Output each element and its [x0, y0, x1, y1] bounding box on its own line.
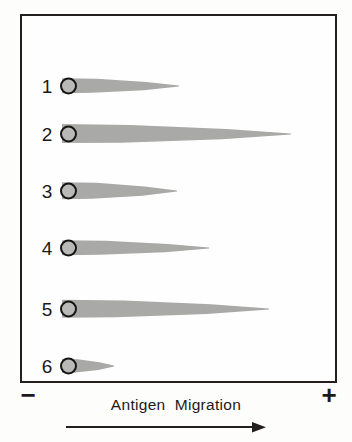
gel-plate: 123456 — [20, 14, 337, 383]
gel-lane: 1 — [22, 63, 335, 109]
rocket-immunoelectrophoresis-figure: 123456 − + Antigen Migration — [0, 0, 352, 442]
gel-lane: 4 — [22, 225, 335, 271]
right-arrow-icon — [66, 421, 266, 435]
lane-number-label: 6 — [39, 357, 55, 376]
lane-number-label: 1 — [39, 77, 55, 96]
precipitin-rocket — [62, 239, 209, 258]
gel-lane: 2 — [22, 111, 335, 157]
precipitin-rocket — [62, 123, 291, 146]
lane-number-label: 4 — [39, 239, 55, 258]
gel-lane: 6 — [22, 343, 335, 389]
antigen-well — [60, 358, 77, 375]
antigen-well — [60, 126, 77, 143]
precipitin-rocket — [62, 181, 177, 202]
gel-lane: 5 — [22, 286, 335, 332]
axis-caption: Antigen Migration — [0, 396, 352, 414]
antigen-well — [60, 301, 77, 318]
precipitin-rocket — [62, 298, 269, 320]
antigen-well — [60, 78, 77, 95]
precipitin-rocket — [62, 77, 179, 96]
antigen-well — [60, 240, 77, 257]
lane-number-label: 2 — [39, 125, 55, 144]
gel-lane: 3 — [22, 168, 335, 214]
lane-number-label: 3 — [39, 182, 55, 201]
antigen-well — [60, 183, 77, 200]
lane-number-label: 5 — [39, 300, 55, 319]
